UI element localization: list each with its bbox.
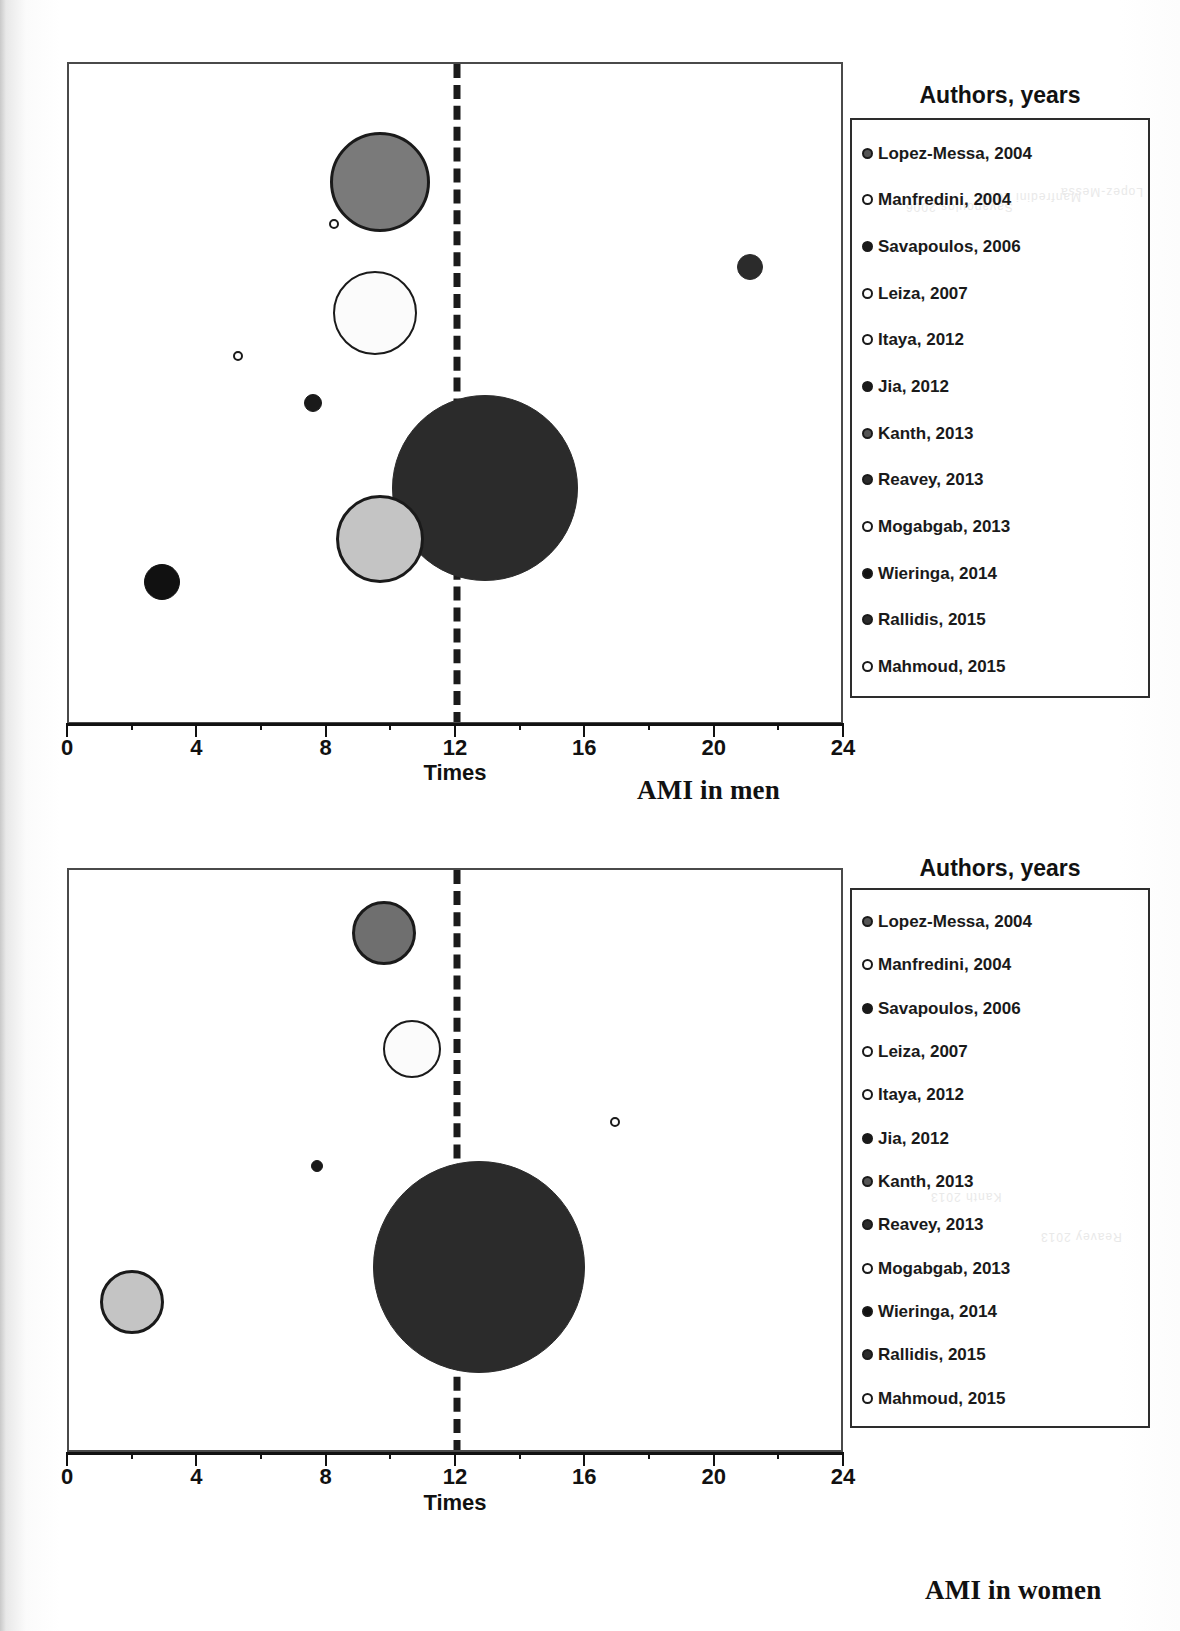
chart-panel-ami-in-women: 04812162024TimesAMI in womenAuthors, yea… [0,0,1180,1631]
x-tick-14 [519,1452,521,1459]
legend-item-reavey-2013[interactable]: Reavey, 2013 [862,1203,1140,1246]
legend-item-leiza-2007[interactable]: Leiza, 2007 [862,1030,1140,1073]
legend-item-label: Kanth, 2013 [878,1173,973,1190]
legend-marker-icon [862,1306,873,1317]
plot-inner [69,870,841,1450]
legend-marker-icon [862,1349,873,1360]
plot-area-ami-in-women [67,868,843,1452]
legend-item-wieringa-2014[interactable]: Wieringa, 2014 [862,1290,1140,1333]
legend-item-mogabgab-2013[interactable]: Mogabgab, 2013 [862,1247,1140,1290]
legend-item-label: Wieringa, 2014 [878,1303,997,1320]
x-tick-2 [131,1452,133,1459]
legend-item-label: Itaya, 2012 [878,1086,964,1103]
legend-marker-icon [862,1263,873,1274]
legend-item-lopez-messa-2004[interactable]: Lopez-Messa, 2004 [862,900,1140,943]
legend-item-itaya-2012[interactable]: Itaya, 2012 [862,1073,1140,1116]
bubble-leiza-2007 [383,1020,441,1078]
legend-marker-icon [862,1393,873,1404]
bubble-kanth-2013 [373,1161,585,1373]
legend-box: Lopez-Messa, 2004Manfredini, 2004Savapou… [850,888,1150,1428]
x-tick-6 [260,1452,262,1459]
bubble-lopez-messa-2004 [352,901,416,965]
x-tick-label-24: 24 [831,1464,855,1490]
legend-marker-icon [862,1176,873,1187]
legend-marker-icon [862,959,873,970]
legend-item-label: Manfredini, 2004 [878,956,1011,973]
x-tick-10 [389,1452,391,1459]
legend-marker-icon [862,1046,873,1057]
x-axis-title: Times [423,1490,486,1516]
legend-item-label: Leiza, 2007 [878,1043,968,1060]
legend-item-mahmoud-2015[interactable]: Mahmoud, 2015 [862,1377,1140,1420]
legend-item-savapoulos-2006[interactable]: Savapoulos, 2006 [862,987,1140,1030]
legend-marker-icon [862,1003,873,1014]
x-tick-22 [777,1452,779,1459]
x-tick-label-8: 8 [320,1464,332,1490]
x-tick-label-16: 16 [572,1464,596,1490]
legend-item-label: Mogabgab, 2013 [878,1260,1010,1277]
bubble-mogabgab-2013 [100,1270,164,1334]
legend-item-label: Lopez-Messa, 2004 [878,913,1032,930]
legend-marker-icon [862,1219,873,1230]
x-tick-label-4: 4 [190,1464,202,1490]
x-tick-label-12: 12 [443,1464,467,1490]
legend-item-label: Jia, 2012 [878,1130,949,1147]
legend-item-rallidis-2015[interactable]: Rallidis, 2015 [862,1333,1140,1376]
legend-item-label: Savapoulos, 2006 [878,1000,1021,1017]
legend-item-jia-2012[interactable]: Jia, 2012 [862,1117,1140,1160]
panel-caption-ami-in-women: AMI in women [925,1575,1101,1606]
legend-item-manfredini-2004[interactable]: Manfredini, 2004 [862,943,1140,986]
x-tick-18 [648,1452,650,1459]
legend-item-label: Rallidis, 2015 [878,1346,986,1363]
legend-title: Authors, years [919,855,1080,882]
legend-marker-icon [862,916,873,927]
legend-item-label: Mahmoud, 2015 [878,1390,1006,1407]
legend-item-label: Reavey, 2013 [878,1216,984,1233]
x-tick-label-20: 20 [701,1464,725,1490]
bubble-itaya-2012 [610,1117,620,1127]
legend-item-kanth-2013[interactable]: Kanth, 2013 [862,1160,1140,1203]
legend-marker-icon [862,1133,873,1144]
bubble-jia-2012 [311,1160,323,1172]
x-tick-label-0: 0 [61,1464,73,1490]
legend-marker-icon [862,1089,873,1100]
